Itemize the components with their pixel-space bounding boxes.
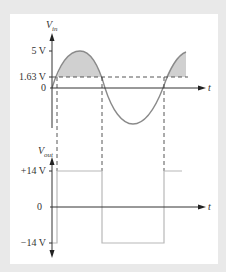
- t-label-bottom: t: [208, 201, 211, 212]
- tick-label-0-bottom: 0: [37, 201, 42, 212]
- vin-t-arrow-icon: [198, 86, 206, 91]
- vout-label: Vout: [38, 145, 54, 159]
- t-label-top: t: [208, 82, 211, 93]
- tick-label-5v: 5 V: [31, 45, 46, 56]
- vout-y-down-arrow-icon: [50, 250, 55, 258]
- tick-label-minus14v: −14 V: [21, 237, 47, 248]
- tick-label-0-top: 0: [41, 82, 46, 93]
- vout-t-arrow-icon: [198, 205, 206, 210]
- vin-label: Vin: [46, 19, 58, 33]
- comparator-diagram: Vin 5 V 1.63 V 0 t Vout +14 V 0 −14 V t: [0, 0, 226, 272]
- tick-label-plus14v: +14 V: [21, 165, 47, 176]
- vin-y-arrow-icon: [50, 33, 55, 41]
- tick-label-1-63v: 1.63 V: [19, 71, 47, 82]
- shaded-region-1: [57, 51, 101, 77]
